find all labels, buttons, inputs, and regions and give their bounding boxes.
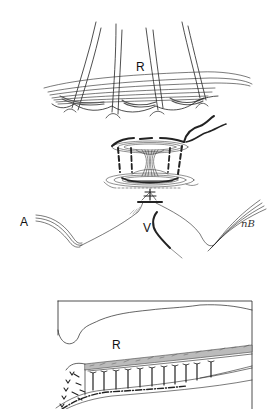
- artery-curve: [36, 202, 143, 247]
- retinal-layers: [44, 72, 252, 104]
- label-artery: A: [20, 216, 28, 228]
- bottom-panel: [56, 301, 252, 409]
- vein-curve: [153, 212, 170, 248]
- artist-signature: nB: [241, 219, 255, 229]
- label-retina-top: R: [136, 61, 145, 73]
- label-vein: V: [143, 222, 151, 234]
- label-retina-bottom: R: [112, 339, 121, 351]
- medical-illustration: R A V nB R: [0, 0, 274, 409]
- macular-structure: [104, 116, 226, 202]
